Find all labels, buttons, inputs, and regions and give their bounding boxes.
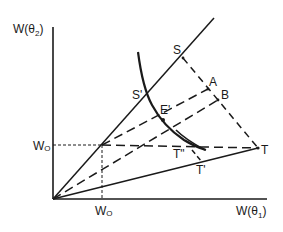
label-A: A [209, 75, 217, 89]
point-S [182, 57, 185, 60]
point-B [217, 99, 220, 102]
w0-to-A-dashed-line [102, 89, 208, 145]
label-T: T [261, 143, 269, 157]
S-T-dashed-line [183, 58, 258, 148]
indifference-curve [138, 52, 206, 150]
x-axis-label: W(θ1) [236, 204, 266, 220]
equality-line [53, 18, 214, 199]
point-T [256, 146, 259, 149]
T-double-prime-to-T-prime-dashed [192, 150, 202, 162]
w0-y-label: WO [33, 139, 51, 153]
y-axis-label: W(θ2) [13, 22, 43, 38]
label-E-prime: E' [160, 103, 170, 117]
point-E-prime [161, 118, 165, 122]
welfare-diagram: W(θ2) W(θ1) WO WO S S' A B E' T T" T' [0, 0, 283, 232]
origin-to-T-line [53, 148, 258, 199]
label-S-prime: S' [132, 88, 142, 102]
label-T-double-prime: T" [173, 147, 185, 161]
w0-x-label: WO [95, 204, 113, 218]
label-T-prime: T' [196, 163, 206, 177]
origin-to-B-dashed-line [53, 100, 218, 199]
label-B: B [221, 88, 229, 102]
label-S: S [173, 43, 181, 57]
